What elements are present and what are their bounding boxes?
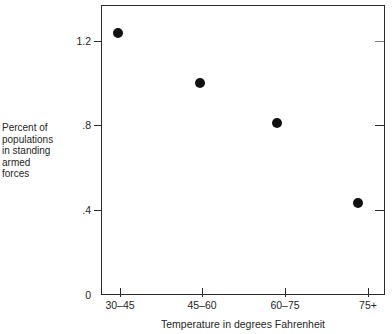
x-tick-45-60 bbox=[202, 288, 203, 297]
y-axis-title: Percent of populations in standing armed… bbox=[2, 122, 88, 180]
x-tick-label-45-60: 45–60 bbox=[172, 299, 232, 311]
x-tick-75-plus bbox=[368, 288, 369, 297]
y-tick-1.2 bbox=[94, 41, 102, 42]
plot-area bbox=[101, 5, 385, 295]
x-tick-60-75 bbox=[285, 288, 286, 297]
y-tick-0.4 bbox=[94, 210, 102, 211]
x-tick-label-60-75: 60–75 bbox=[255, 299, 315, 311]
data-point-60-75 bbox=[272, 118, 282, 128]
y-tick-label-1.2: 1.2 bbox=[51, 36, 91, 46]
data-point-75-plus bbox=[353, 198, 363, 208]
y-tick-label-0.4: .4 bbox=[51, 205, 91, 215]
x-tick-label-30-45: 30–45 bbox=[90, 299, 150, 311]
y-tick-right-0.8 bbox=[375, 125, 384, 126]
y-tick-label-0.8: .8 bbox=[51, 120, 91, 130]
x-axis-title: Temperature in degrees Fahrenheit bbox=[101, 318, 385, 330]
x-tick-30-45 bbox=[120, 288, 121, 297]
data-point-45-60 bbox=[195, 78, 205, 88]
y-tick-0.8 bbox=[94, 125, 102, 126]
y-tick-right-0.4 bbox=[375, 210, 384, 211]
data-point-30-45 bbox=[113, 28, 123, 38]
x-tick-label-75-plus: 75+ bbox=[338, 299, 392, 311]
y-tick-right-1.2 bbox=[375, 41, 384, 42]
y-tick-label-0: 0 bbox=[51, 290, 91, 300]
